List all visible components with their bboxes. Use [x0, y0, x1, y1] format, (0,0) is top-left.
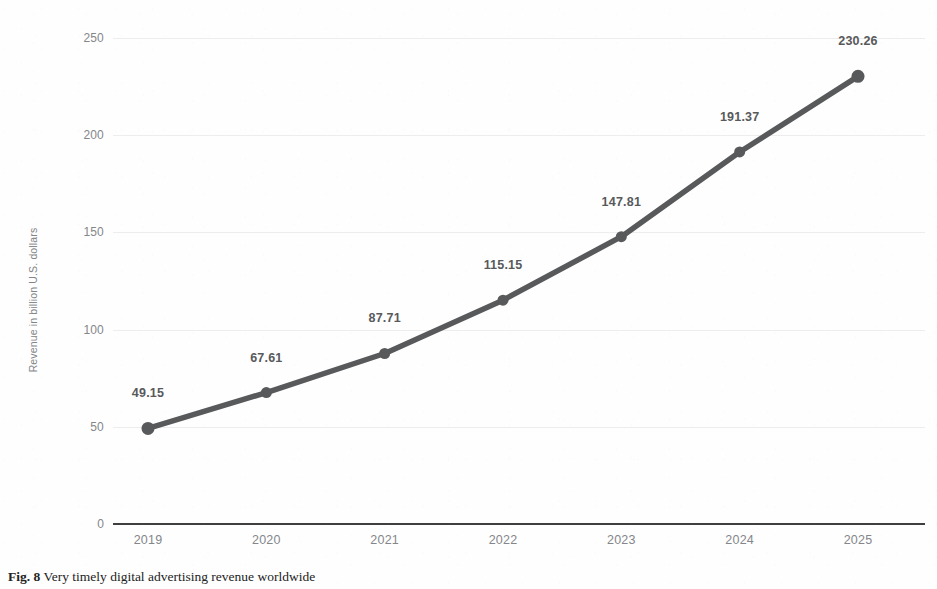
data-point-marker	[498, 295, 509, 306]
data-point-label: 49.15	[103, 386, 193, 400]
chart-plot-area: Revenue in billion U.S. dollars 05010015…	[0, 0, 937, 560]
figure-container: Revenue in billion U.S. dollars 05010015…	[0, 0, 937, 589]
data-point-label: 230.26	[813, 34, 903, 48]
data-point-marker	[616, 231, 627, 242]
data-point-marker	[379, 348, 390, 359]
data-point-marker	[852, 70, 865, 83]
figure-caption-text: Very timely digital advertising revenue …	[43, 569, 315, 584]
data-point-label: 67.61	[221, 351, 311, 365]
series-polyline	[148, 76, 858, 428]
series-markers	[142, 70, 865, 435]
data-point-label: 115.15	[458, 258, 548, 272]
figure-caption: Fig. 8 Very timely digital advertising r…	[8, 568, 933, 589]
data-point-label: 147.81	[576, 195, 666, 209]
data-point-marker	[261, 387, 272, 398]
data-point-label: 191.37	[695, 110, 785, 124]
data-point-marker	[734, 146, 745, 157]
data-point-marker	[142, 422, 155, 435]
data-point-label: 87.71	[340, 311, 430, 325]
series-line-chart	[0, 0, 937, 560]
figure-number: Fig. 8	[8, 569, 40, 584]
